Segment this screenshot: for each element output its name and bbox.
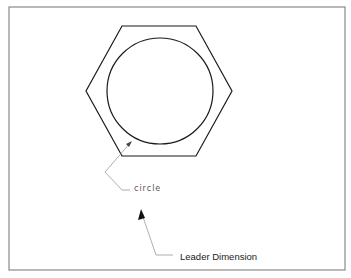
hexagon-shape[interactable] bbox=[86, 26, 232, 156]
circle-leader-arrow-icon bbox=[126, 141, 132, 147]
leader-dimension-arrow-icon bbox=[138, 209, 145, 220]
leader-dimension-label: Leader Dimension bbox=[180, 251, 257, 262]
diagram-svg bbox=[0, 0, 351, 278]
leader-dimension-line bbox=[142, 214, 173, 255]
circle-shape[interactable] bbox=[107, 38, 213, 144]
drawing-frame bbox=[9, 7, 345, 270]
circle-label: circle bbox=[134, 184, 161, 193]
